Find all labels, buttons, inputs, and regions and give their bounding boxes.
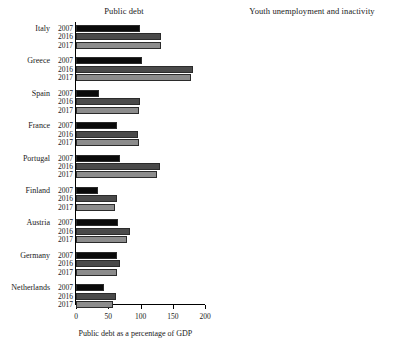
bar-row — [76, 163, 205, 170]
country-group: Spain200720162017 — [76, 90, 205, 114]
left-group-labels: Portugal200720162017 — [0, 155, 76, 179]
x-tick-label: 0 — [74, 312, 78, 321]
bar-row — [76, 33, 205, 40]
left-group-labels: Italy200720162017 — [0, 25, 76, 49]
left-plot-area: 050100150200 Italy200720162017Greece2007… — [76, 22, 205, 305]
x-tick-label: 50 — [105, 312, 113, 321]
country-label: Netherlands — [11, 283, 50, 292]
debt-bar — [76, 57, 142, 64]
country-label: Portugal — [23, 154, 50, 163]
bar-row — [76, 301, 205, 308]
debt-bar — [76, 98, 140, 105]
debt-bar — [76, 269, 117, 276]
bar-row — [76, 42, 205, 49]
debt-bar — [76, 42, 161, 49]
bar-row — [76, 74, 205, 81]
debt-bar — [76, 293, 116, 300]
year-label: 2017 — [58, 203, 73, 212]
debt-bar — [76, 236, 127, 243]
bar-row — [76, 98, 205, 105]
right-chart-title: Youth unemployment and inactivity — [208, 6, 416, 16]
year-label: 2017 — [58, 170, 73, 179]
country-label: Spain — [32, 89, 50, 98]
bar-row — [76, 57, 205, 64]
bar-row — [76, 269, 205, 276]
bar-row — [76, 122, 205, 129]
left-group-labels: Austria200720162017 — [0, 219, 76, 243]
country-label: Italy — [35, 24, 50, 33]
country-group: France200720162017 — [76, 122, 205, 146]
debt-bar — [76, 171, 157, 178]
country-group: Greece200720162017 — [76, 57, 205, 81]
debt-bar — [76, 107, 139, 114]
country-label: France — [28, 121, 50, 130]
debt-bar — [76, 25, 140, 32]
year-label: 2017 — [58, 268, 73, 277]
left-chart-title: Public debt — [0, 6, 208, 16]
country-label: Austria — [26, 218, 50, 227]
debt-bar — [76, 163, 160, 170]
debt-bar — [76, 252, 117, 259]
bar-row — [76, 90, 205, 97]
bar-row — [76, 25, 205, 32]
country-group: Portugal200720162017 — [76, 155, 205, 179]
debt-bar — [76, 155, 120, 162]
debt-bar — [76, 187, 98, 194]
bar-row — [76, 187, 205, 194]
year-label: 2017 — [58, 235, 73, 244]
left-group-labels: France200720162017 — [0, 122, 76, 146]
bar-row — [76, 260, 205, 267]
debt-bar — [76, 195, 117, 202]
country-group: Italy200720162017 — [76, 25, 205, 49]
debt-bar — [76, 74, 191, 81]
debt-bar — [76, 90, 99, 97]
country-label: Finland — [26, 186, 50, 195]
bar-row — [76, 139, 205, 146]
left-group-labels: Finland200720162017 — [0, 187, 76, 211]
year-label: 2017 — [58, 73, 73, 82]
country-group: Finland200720162017 — [76, 187, 205, 211]
debt-bar — [76, 122, 117, 129]
debt-bar — [76, 228, 130, 235]
bar-row — [76, 66, 205, 73]
x-tick — [205, 305, 206, 309]
bar-row — [76, 252, 205, 259]
year-label: 2017 — [58, 138, 73, 147]
debt-bar — [76, 204, 115, 211]
country-group: Germany200720162017 — [76, 252, 205, 276]
bar-row — [76, 171, 205, 178]
debt-bar — [76, 66, 193, 73]
bar-row — [76, 293, 205, 300]
year-label: 2017 — [58, 106, 73, 115]
bar-row — [76, 131, 205, 138]
left-group-labels: Greece200720162017 — [0, 57, 76, 81]
left-group-labels: Spain200720162017 — [0, 90, 76, 114]
debt-bar — [76, 139, 139, 146]
public-debt-panel: Public debt 050100150200 Italy2007201620… — [0, 0, 208, 354]
debt-bar — [76, 219, 118, 226]
left-group-labels: Germany200720162017 — [0, 252, 76, 276]
left-axis-caption: Public debt as a percentage of GDP — [78, 329, 192, 338]
left-group-labels: Netherlands200720162017 — [0, 284, 76, 308]
country-group: Austria200720162017 — [76, 219, 205, 243]
bar-row — [76, 204, 205, 211]
year-label: 2017 — [58, 300, 73, 309]
x-tick-label: 150 — [167, 312, 178, 321]
country-label: Greece — [27, 56, 50, 65]
bar-row — [76, 155, 205, 162]
debt-bar — [76, 260, 120, 267]
youth-unemployment-panel: Youth unemployment and inactivity 051015… — [208, 0, 416, 354]
x-tick-label: 100 — [135, 312, 146, 321]
bar-row — [76, 195, 205, 202]
debt-bar — [76, 301, 113, 308]
debt-bar — [76, 284, 104, 291]
bar-row — [76, 236, 205, 243]
year-label: 2017 — [58, 41, 73, 50]
bar-row — [76, 107, 205, 114]
bar-row — [76, 219, 205, 226]
country-label: Germany — [20, 251, 50, 260]
bar-row — [76, 284, 205, 291]
country-group: Netherlands200720162017 — [76, 284, 205, 308]
bar-row — [76, 228, 205, 235]
debt-bar — [76, 33, 161, 40]
